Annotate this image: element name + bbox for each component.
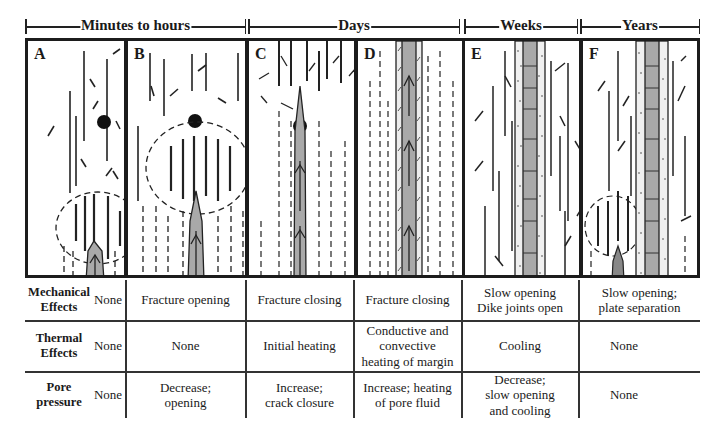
cell-pore-a: None (91, 372, 125, 418)
cell-thermal-b: None (126, 321, 245, 371)
fracture-sketch-c (249, 41, 357, 278)
cell-mechanical-e: Slow opening Dike joints open (462, 280, 578, 320)
cell-mechanical-b: Fracture opening (126, 280, 245, 320)
diagram: Minutes to hours Days Weeks Years (0, 0, 712, 440)
cell-thermal-f: None (579, 321, 669, 371)
effects-table: MechanicalEffects None Fracture opening … (25, 280, 700, 418)
period-label: Weeks (499, 17, 543, 34)
panel-letter: C (254, 45, 268, 63)
row-label-line: Effects (36, 346, 83, 361)
cell-pore-b: Decrease; opening (126, 372, 245, 418)
fracture-sketch-b (128, 41, 248, 278)
cell-mechanical-f: Slow opening; plate separation (579, 280, 700, 320)
period-label: Days (337, 17, 371, 34)
cell-pore-d: Increase; heating of pore fluid (354, 372, 461, 418)
panel-strip: A (25, 38, 700, 278)
row-label-line: pressure (36, 395, 81, 410)
panel-letter: E (470, 45, 483, 63)
row-label-mechanical: MechanicalEffects (25, 280, 93, 320)
period-label: Minutes to hours (80, 17, 191, 34)
panel-d: D (355, 38, 465, 278)
fracture-sketch-a (28, 41, 127, 278)
cell-mechanical-d: Fracture closing (354, 280, 461, 320)
row-label-line: Effects (28, 300, 90, 315)
cell-thermal-a: None (91, 321, 125, 371)
row-label-line: Mechanical (28, 285, 90, 300)
period-years: Years (580, 18, 700, 34)
panel-letter: D (363, 45, 377, 63)
panel-letter: B (133, 45, 146, 63)
panel-e: E (462, 38, 582, 278)
cell-mechanical-c: Fracture closing (246, 280, 353, 320)
period-label: Years (621, 17, 659, 34)
fracture-sketch-d (358, 41, 465, 278)
panel-letter: A (33, 45, 47, 63)
panel-c: C (246, 38, 357, 278)
cell-thermal-c: Initial heating (246, 321, 353, 371)
fracture-sketch-e (465, 41, 582, 278)
period-days: Days (248, 18, 460, 34)
period-weeks: Weeks (464, 18, 578, 34)
cell-thermal-d: Conductive and convective heating of mar… (354, 321, 461, 371)
row-label-pore-pressure: Porepressure (25, 372, 93, 418)
panel-b: B (125, 38, 248, 278)
panel-a: A (25, 38, 127, 278)
cell-pore-c: Increase; crack closure (246, 372, 353, 418)
panel-f: F (580, 38, 700, 278)
cell-thermal-e: Cooling (462, 321, 578, 371)
row-label-line: Pore (36, 380, 81, 395)
row-label-thermal: ThermalEffects (25, 321, 93, 371)
cell-pore-f: None (579, 372, 669, 418)
row-label-line: Thermal (36, 331, 83, 346)
cell-pore-e: Decrease; slow opening and cooling (462, 372, 578, 418)
period-minutes-to-hours: Minutes to hours (25, 18, 246, 34)
panel-letter: F (588, 45, 600, 63)
fracture-sketch-f (583, 41, 700, 278)
cell-mechanical-a: None (91, 280, 125, 320)
